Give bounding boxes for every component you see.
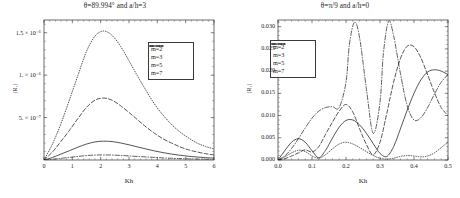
x-tick-label: 0.3: [366, 163, 394, 169]
legend-label: m=3: [273, 51, 284, 59]
y-tick-label: 1. × 10⁻⁶: [8, 71, 41, 78]
x-tick-label: 5: [172, 163, 200, 169]
x-tick-label: 0.2: [332, 163, 360, 169]
curve-m-3: [278, 70, 448, 160]
legend-label: m=5: [273, 59, 284, 67]
x-tick-label: 0.4: [400, 163, 428, 169]
x-axis-label-left: Kh: [99, 177, 159, 185]
y-tick-label: 0.020: [242, 67, 275, 73]
plot-panel-left: θ=89.994° and a/h=3 |R₁| Kh m=2m=3m=5m=7…: [0, 0, 230, 198]
legend-item-m-5: m=5: [151, 61, 190, 69]
legend-item-m-7: m=7: [151, 69, 190, 77]
legend-item-m-3: m=3: [151, 53, 190, 61]
x-tick-label: 6: [200, 163, 228, 169]
y-tick-label: 0.030: [242, 23, 275, 29]
legend-item-m-5: m=5: [273, 59, 312, 67]
y-axis-label-left: |R₁|: [11, 79, 18, 99]
legend-item-m-3: m=3: [273, 51, 312, 59]
x-tick-label: 2: [87, 163, 115, 169]
y-tick-label: 0.015: [242, 89, 275, 95]
legend-label: m=3: [151, 53, 162, 61]
legend-left: m=2m=3m=5m=7: [148, 42, 194, 80]
legend-right: m=2m=3m=5m=7: [270, 40, 316, 78]
y-tick-label: 0.005: [242, 134, 275, 140]
legend-line-swatch: [149, 43, 164, 49]
x-tick-label: 0.5: [434, 163, 460, 169]
x-tick-label: 0: [30, 163, 58, 169]
legend-label: m=7: [151, 69, 162, 77]
y-tick-label: 0.025: [242, 45, 275, 51]
y-tick-label: 1.5 × 10⁻⁶: [8, 29, 41, 36]
curve-m-2: [278, 142, 448, 160]
y-tick-label: 0.010: [242, 112, 275, 118]
plot-panel-right: θ=π/9 and a/h=0 |R₁| Kh m=2m=3m=5m=7 0.0…: [230, 0, 460, 198]
legend-item-m-7: m=7: [273, 67, 312, 75]
y-tick-label: 5. × 10⁻⁷: [8, 114, 41, 121]
figure-two-panel-plots: θ=89.994° and a/h=3 |R₁| Kh m=2m=3m=5m=7…: [0, 0, 460, 198]
y-tick-label: 0.000: [242, 156, 275, 162]
x-axis-label-right: Kh: [333, 177, 393, 185]
x-tick-label: 0.0: [264, 163, 292, 169]
x-tick-label: 4: [143, 163, 171, 169]
x-tick-label: 1: [58, 163, 86, 169]
x-tick-label: 0.1: [298, 163, 326, 169]
legend-label: m=5: [151, 61, 162, 69]
x-tick-label: 3: [115, 163, 143, 169]
